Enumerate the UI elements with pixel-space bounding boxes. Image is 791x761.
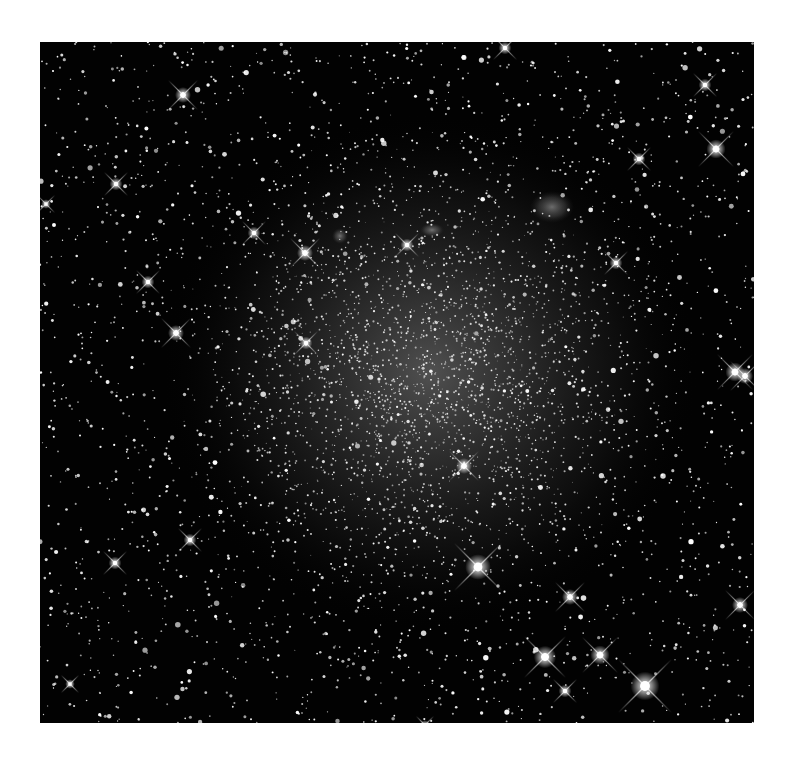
nebula-patch bbox=[530, 191, 574, 223]
galaxy-photograph: Dwarf irregular galaxy star field (grays… bbox=[40, 42, 754, 723]
star-field bbox=[40, 42, 754, 723]
nebula-patch bbox=[332, 228, 348, 244]
